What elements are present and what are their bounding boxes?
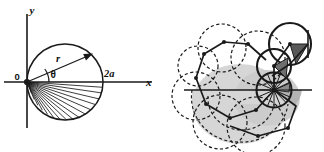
polar-circle-diagram: y x 0 r θ 2a (0, 0, 162, 152)
vertex-dot (256, 134, 260, 138)
dashed-circle (198, 24, 246, 72)
vertex-dot (202, 52, 206, 56)
spiral-of-circles-diagram (162, 0, 324, 152)
r-ray-arrowhead (83, 54, 93, 61)
vertex-dot (272, 64, 276, 68)
vertex-dot (228, 116, 232, 120)
figure-page: y x 0 r θ 2a (0, 0, 324, 152)
chord-fan (27, 82, 103, 120)
vertex-dot (194, 76, 198, 80)
x-axis-label: x (145, 76, 152, 88)
vertex-dot (222, 40, 226, 44)
radius-label: r (56, 53, 61, 64)
y-axis-label: y (28, 4, 35, 16)
origin-label: 0 (15, 71, 20, 82)
vertex-dot (246, 42, 250, 46)
vertex-dot (254, 108, 258, 112)
vertex-dot (204, 102, 208, 106)
spiral-pole-dot (272, 88, 277, 93)
theta-arc (45, 69, 49, 82)
vertex-dot (288, 42, 292, 46)
diameter-label: 2a (103, 68, 115, 79)
right-figure-svg (162, 0, 324, 152)
vertex-dot (286, 126, 290, 130)
angle-label: θ (51, 69, 56, 80)
origin-dot (24, 79, 30, 85)
left-figure-svg: y x 0 r θ 2a (0, 0, 162, 152)
